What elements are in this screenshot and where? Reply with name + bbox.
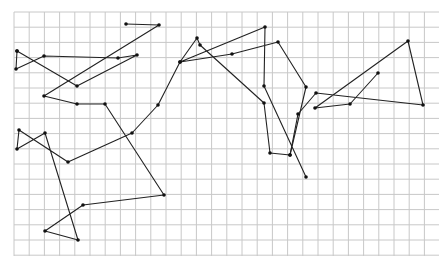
- vertex-dot: [135, 53, 139, 57]
- vertex-dot: [276, 40, 280, 44]
- vertex-dot: [103, 102, 107, 106]
- vertex-dot: [76, 238, 80, 242]
- vertex-dot: [296, 112, 300, 116]
- vertex-dot: [14, 67, 18, 71]
- vertex-dot: [195, 36, 199, 40]
- vertex-dot: [304, 85, 308, 89]
- vertex-dot: [162, 193, 166, 197]
- vertex-dot: [75, 84, 79, 88]
- vertex-dot: [15, 49, 19, 53]
- vertex-dot: [130, 131, 134, 135]
- vertex-dot: [43, 229, 47, 233]
- vertex-dot: [178, 60, 182, 64]
- vertex-dot: [43, 131, 47, 135]
- vertex-dot: [75, 102, 79, 106]
- vertex-dot: [198, 43, 202, 47]
- vertex-dot: [156, 103, 160, 107]
- vertex-dot: [116, 56, 120, 60]
- polyline-paths: [16, 24, 423, 240]
- vertex-dot: [42, 94, 46, 98]
- vertex-dot: [124, 22, 128, 26]
- vertex-dot: [348, 102, 352, 106]
- vertex-dot: [262, 101, 266, 105]
- vertex-dot: [314, 91, 318, 95]
- graph-paper-figure: [0, 0, 446, 272]
- vertex-dot: [263, 25, 267, 29]
- vertex-dot: [157, 23, 161, 27]
- vertex-dot: [15, 147, 19, 151]
- vertex-dot: [66, 160, 70, 164]
- vertex-dot: [17, 128, 21, 132]
- vertex-dot: [288, 153, 292, 157]
- vertex-dot: [81, 203, 85, 207]
- vertex-dot: [230, 52, 234, 56]
- vertex-dot: [268, 151, 272, 155]
- vertex-dot: [304, 175, 308, 179]
- vertex-dot: [406, 39, 410, 43]
- grid-lines: [14, 12, 439, 256]
- vertex-dot: [262, 84, 266, 88]
- vertex-dot: [313, 106, 317, 110]
- path-b: [16, 51, 137, 86]
- vertex-dot: [421, 103, 425, 107]
- vertex-dot: [376, 71, 380, 75]
- vertex-dot: [42, 54, 46, 58]
